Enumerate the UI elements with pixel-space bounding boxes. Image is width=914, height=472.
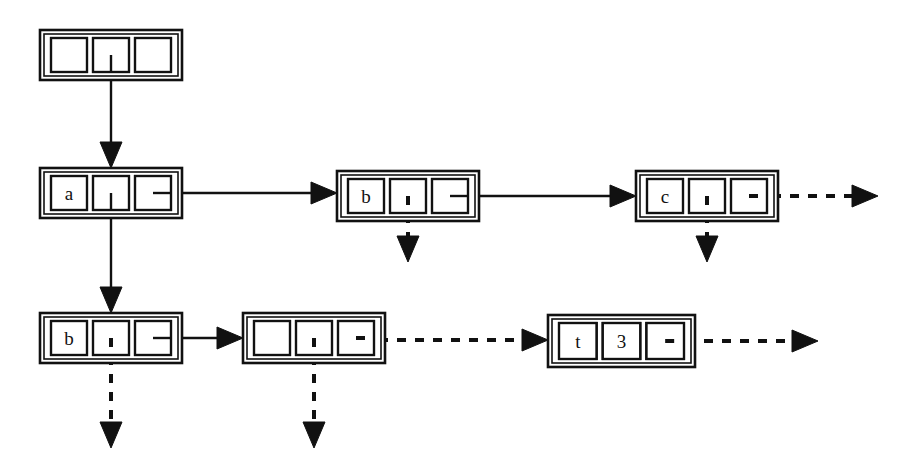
edge-solid-horizontal [455,185,636,207]
node-layer: abcbt3 [40,30,778,367]
node-cell-value[interactable]: a [51,176,87,210]
cell-label: b [361,186,371,207]
edge-dashed-horizontal [361,329,548,351]
cell-label: b [64,328,74,349]
node-c[interactable]: c [636,171,778,221]
node-cell-pointer-right-dashed[interactable] [338,321,374,355]
node-empty-row3[interactable] [243,313,385,363]
node-a[interactable]: a [40,168,182,218]
node-cell-pointer-down-dashed[interactable] [390,179,426,213]
node-cell-pointer-right[interactable] [432,179,468,213]
node-cell-value[interactable]: b [348,179,384,213]
cell-label: c [661,186,669,207]
node-cell-pointer-down[interactable] [93,38,129,72]
node-cell-empty[interactable] [51,38,87,72]
node-root[interactable] [40,30,182,80]
node-cell-pointer-down-dashed[interactable] [296,321,332,355]
box-and-pointer-diagram: abcbt3 [0,0,914,472]
node-cell-value[interactable]: c [647,179,683,213]
node-b-row2[interactable]: b [337,171,479,221]
cell-label: 3 [617,331,627,352]
node-cell-pointer-down-dashed[interactable] [93,321,129,355]
node-b-row3[interactable]: b [40,313,182,363]
node-cell-pointer-right[interactable] [135,176,171,210]
edge-solid-horizontal [158,182,337,204]
node-t3[interactable]: t3 [548,315,695,367]
node-cell-pointer-right[interactable] [135,321,171,355]
node-cell-pointer-right-dashed[interactable] [646,323,684,359]
node-cell-empty[interactable] [135,38,171,72]
node-cell-pointer-down-dashed[interactable] [689,179,725,213]
node-cell-pointer-down[interactable] [93,176,129,210]
node-cell-empty[interactable] [254,321,290,355]
cell-label: a [65,183,74,204]
node-cell-value[interactable]: b [51,321,87,355]
edge-layer [100,55,878,448]
node-cell-pointer-right-dashed[interactable] [731,179,767,213]
node-cell-value[interactable]: 3 [603,323,641,359]
cell-label: t [575,331,581,352]
node-cell-value[interactable]: t [559,323,597,359]
diagram-canvas: abcbt3 [0,0,914,472]
